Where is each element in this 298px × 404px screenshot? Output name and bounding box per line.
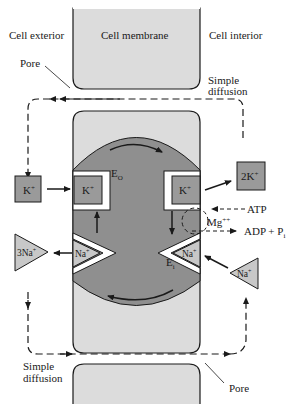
cell-interior-label: Cell interior bbox=[209, 29, 263, 41]
adp-label: ADP + Pi bbox=[244, 225, 285, 240]
cell-exterior-label: Cell exterior bbox=[9, 29, 65, 41]
na-ion-released: 3Na+ bbox=[15, 234, 48, 271]
cell-membrane-label: Cell membrane bbox=[101, 29, 169, 41]
membrane-bottom-block bbox=[73, 364, 200, 404]
simple-diffusion-label-bottom-2: diffusion bbox=[23, 372, 63, 384]
pore-label-bottom: Pore bbox=[229, 382, 249, 394]
atp-label: ATP bbox=[247, 203, 267, 215]
k-ion-released: 2K+ bbox=[237, 162, 265, 190]
k-ion-outside: K+ bbox=[15, 176, 41, 202]
simple-diffusion-label-top-2: diffusion bbox=[208, 85, 248, 97]
mg-label: Mg++ bbox=[207, 216, 230, 228]
pump-protein bbox=[73, 138, 200, 306]
k-ion-pump-left: K+ bbox=[74, 176, 102, 204]
membrane-top-block bbox=[73, 8, 200, 89]
na-ion-inside: Na+ bbox=[230, 258, 258, 289]
sodium-potassium-pump-diagram: K+ K+ K+ 2K+ 3Na+ Na+ Na+ Na+ Cell ex bbox=[0, 0, 298, 404]
pore-label-top: Pore bbox=[20, 57, 40, 69]
k-ion-pump-right: K+ bbox=[172, 176, 200, 204]
simple-diffusion-label-bottom: Simple bbox=[23, 360, 54, 372]
